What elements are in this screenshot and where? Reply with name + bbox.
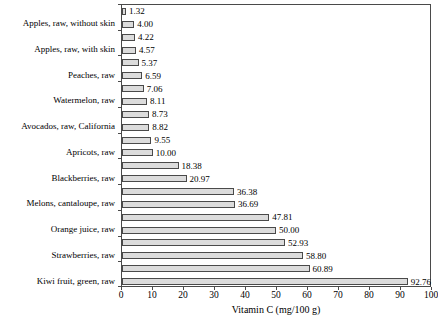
bar <box>122 137 151 144</box>
bar <box>122 34 135 41</box>
bar <box>122 72 142 79</box>
x-tick-label: 70 <box>333 291 343 301</box>
bar <box>122 227 276 234</box>
bar-value-label: 4.57 <box>139 46 155 55</box>
bar <box>122 111 149 118</box>
bar-value-label: 1.32 <box>129 7 145 16</box>
bar <box>122 59 139 66</box>
x-tick-label: 60 <box>302 291 312 301</box>
bar-value-label: 10.00 <box>156 148 176 157</box>
bar-value-label: 58.80 <box>306 251 326 260</box>
x-axis-title: Vitamin C (mg/100 g) <box>121 305 431 315</box>
bar <box>122 98 147 105</box>
x-tick-label: 20 <box>178 291 188 301</box>
category-label: Apricots, raw <box>66 147 115 156</box>
category-label: Peaches, raw <box>68 70 115 79</box>
bar <box>122 175 187 182</box>
category-label: Apples, raw, without skin <box>23 19 115 28</box>
bar-value-label: 92.76 <box>411 277 431 286</box>
x-tick-label: 40 <box>240 291 250 301</box>
bar <box>122 149 153 156</box>
bar-value-label: 47.81 <box>272 213 292 222</box>
bar <box>122 201 235 208</box>
bar <box>122 124 149 131</box>
bar <box>122 239 285 246</box>
bar-value-label: 18.38 <box>182 161 202 170</box>
bar <box>122 85 144 92</box>
bar-value-label: 36.69 <box>238 200 258 209</box>
bar-value-label: 52.93 <box>288 238 308 247</box>
bar-value-label: 36.38 <box>237 187 257 196</box>
x-tick-label: 90 <box>395 291 405 301</box>
category-label: Orange juice, raw <box>51 225 115 234</box>
plot-area: 1.324.004.224.575.376.597.068.118.738.82… <box>121 4 431 287</box>
category-label: Melons, cantaloupe, raw <box>27 199 115 208</box>
x-tick-label: 0 <box>119 291 124 301</box>
bar-value-label: 20.97 <box>190 174 210 183</box>
bar-value-label: 9.55 <box>154 136 170 145</box>
bar <box>122 21 134 28</box>
x-tick-label: 10 <box>147 291 157 301</box>
bar <box>122 265 310 272</box>
category-label: Kiwi fruit, green, raw <box>37 276 115 285</box>
bar <box>122 162 179 169</box>
bar-value-label: 50.00 <box>279 226 299 235</box>
y-axis-category-labels: Apples, raw, without skinApples, raw, wi… <box>0 4 118 287</box>
bar-value-label: 5.37 <box>142 58 158 67</box>
bar <box>122 252 303 259</box>
category-label: Strawberries, raw <box>52 250 115 259</box>
vitamin-c-bar-chart: Apples, raw, without skinApples, raw, wi… <box>0 0 438 328</box>
bar <box>122 278 408 285</box>
bar-value-label: 8.73 <box>152 110 168 119</box>
x-tick-label: 100 <box>424 291 438 301</box>
x-tick-label: 50 <box>271 291 281 301</box>
bar-value-label: 8.82 <box>152 123 168 132</box>
bar-value-label: 6.59 <box>145 71 161 80</box>
x-tick-label: 80 <box>364 291 374 301</box>
category-label: Watermelon, raw <box>53 96 115 105</box>
bar-value-label: 8.11 <box>150 97 165 106</box>
category-label: Blackberries, raw <box>52 173 115 182</box>
x-axis-ticks: 0102030405060708090100 <box>121 287 431 303</box>
bar <box>122 8 126 15</box>
bar <box>122 188 234 195</box>
bar <box>122 47 136 54</box>
bar <box>122 214 269 221</box>
x-tick-label: 30 <box>209 291 219 301</box>
category-label: Avocados, raw, California <box>21 122 115 131</box>
bar-value-label: 7.06 <box>147 84 163 93</box>
bar-value-label: 60.89 <box>313 264 333 273</box>
category-label: Apples, raw, with skin <box>34 45 115 54</box>
bar-value-label: 4.22 <box>138 33 154 42</box>
bar-value-label: 4.00 <box>137 20 153 29</box>
